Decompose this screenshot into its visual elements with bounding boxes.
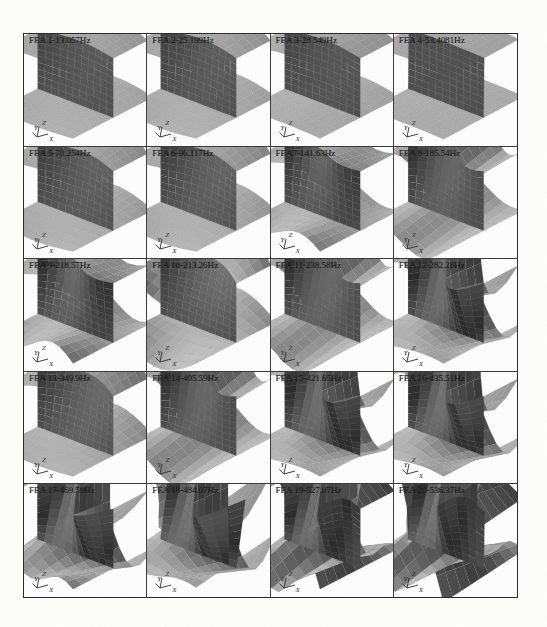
axis-triad: XYZ: [277, 572, 307, 594]
mode-shape-panel[interactable]: FEA 8-185.54HzXYZ: [394, 147, 517, 260]
mode-shape-panel[interactable]: FEA 9-218.57HzXYZ: [24, 259, 147, 372]
mode-shape-panel[interactable]: FEA 6-96.117HzXYZ: [147, 147, 270, 260]
axis-label-y: Y: [34, 236, 38, 244]
axis-label-z: Z: [42, 231, 46, 239]
mode-shape-panel[interactable]: FEA 12-282.28HzXYZ: [394, 259, 517, 372]
panel-caption: FEA 13-349.9Hz: [29, 373, 90, 383]
panel-caption: FEA 15-421.65Hz: [276, 373, 342, 383]
axis-label-z: Z: [42, 344, 46, 352]
mode-shape-panel[interactable]: FEA7-141.63HzXYZ: [271, 147, 394, 260]
axis-label-x: X: [296, 586, 300, 594]
mode-shape-panel[interactable]: FEA 11-238.58HzXYZ: [271, 259, 394, 372]
panel-caption: FEA 14-405.59Hz: [152, 373, 218, 383]
axis-label-x: X: [296, 135, 300, 143]
axis-triad: XYZ: [30, 121, 60, 143]
axis-triad: XYZ: [30, 233, 60, 255]
axis-label-x: X: [296, 360, 300, 368]
axis-label-x: X: [172, 472, 176, 480]
axis-label-z: Z: [289, 119, 293, 127]
axis-label-x: X: [172, 247, 176, 255]
axis-label-z: Z: [42, 119, 46, 127]
mode-shape-panel[interactable]: FEA 5-70.254HzXYZ: [24, 147, 147, 260]
axis-triad: XYZ: [153, 572, 183, 594]
panel-caption: FEA 17-469.59Hz: [29, 485, 95, 495]
mode-shape-panel[interactable]: FEA 1-13.057HzXYZ: [24, 34, 147, 147]
mode-shape-panel[interactable]: FEA 4-53.4081HzXYZ: [394, 34, 517, 147]
panel-caption: FEA 11-238.58Hz: [276, 260, 342, 270]
axis-label-x: X: [419, 360, 423, 368]
panel-caption: FEA 9-218.57Hz: [29, 260, 90, 270]
mode-shape-grid: FEA 1-13.057HzXYZFEA 2-25.199HzXYZFEA 3-…: [23, 33, 518, 598]
axis-label-z: Z: [289, 231, 293, 239]
axis-label-y: Y: [34, 461, 38, 469]
axis-label-y: Y: [404, 349, 408, 357]
axis-triad: XYZ: [153, 346, 183, 368]
panel-caption: FEA 19-527.07Hz: [276, 485, 342, 495]
panel-caption: FEA7-141.63Hz: [276, 148, 336, 158]
axis-label-z: Z: [412, 456, 416, 464]
axis-triad: XYZ: [277, 121, 307, 143]
axis-triad: XYZ: [277, 346, 307, 368]
axis-label-y: Y: [404, 461, 408, 469]
axis-label-y: Y: [281, 461, 285, 469]
axis-label-x: X: [419, 247, 423, 255]
mode-shape-panel[interactable]: FEA 2-25.199HzXYZ: [147, 34, 270, 147]
panel-caption: FEA 4-53.4081Hz: [399, 35, 465, 45]
mode-shape-panel[interactable]: FEA 16-435.51HzXYZ: [394, 372, 517, 485]
axis-label-z: Z: [412, 344, 416, 352]
panel-caption: FEA 10-213.26Hz: [152, 260, 218, 270]
axis-label-z: Z: [165, 456, 169, 464]
mode-shape-panel[interactable]: FEA 13-349.9HzXYZ: [24, 372, 147, 485]
mode-shape-panel[interactable]: FEA 20-536.37HzXYZ: [394, 484, 517, 597]
axis-label-z: Z: [412, 570, 416, 578]
axis-label-x: X: [172, 135, 176, 143]
axis-label-z: Z: [412, 231, 416, 239]
axis-label-y: Y: [281, 236, 285, 244]
axis-label-x: X: [419, 135, 423, 143]
mode-shape-panel[interactable]: FEA 10-213.26HzXYZ: [147, 259, 270, 372]
panel-caption: FEA 1-13.057Hz: [29, 35, 90, 45]
mode-shape-panel[interactable]: FEA 14-405.59HzXYZ: [147, 372, 270, 485]
axis-triad: XYZ: [400, 233, 430, 255]
axis-triad: XYZ: [400, 458, 430, 480]
axis-triad: XYZ: [400, 572, 430, 594]
axis-label-x: X: [49, 360, 53, 368]
panel-caption: FEA 6-96.117Hz: [152, 148, 213, 158]
mode-shape-panel[interactable]: FEA 19-527.07HzXYZ: [271, 484, 394, 597]
axis-label-y: Y: [34, 349, 38, 357]
axis-label-y: Y: [157, 575, 161, 583]
axis-label-x: X: [172, 360, 176, 368]
axis-label-y: Y: [281, 349, 285, 357]
axis-label-x: X: [49, 472, 53, 480]
axis-label-x: X: [49, 247, 53, 255]
axis-label-y: Y: [157, 236, 161, 244]
mode-shape-panel[interactable]: FEA 15-421.65HzXYZ: [271, 372, 394, 485]
axis-label-z: Z: [289, 570, 293, 578]
axis-triad: XYZ: [30, 458, 60, 480]
axis-label-y: Y: [404, 236, 408, 244]
axis-label-z: Z: [42, 456, 46, 464]
axis-label-z: Z: [289, 344, 293, 352]
axis-label-y: Y: [281, 124, 285, 132]
axis-label-z: Z: [165, 570, 169, 578]
axis-triad: XYZ: [153, 121, 183, 143]
panel-caption: FEA 5-70.254Hz: [29, 148, 90, 158]
axis-triad: XYZ: [277, 233, 307, 255]
panel-caption: FEA 12-282.28Hz: [399, 260, 465, 270]
panel-caption: FEA 2-25.199Hz: [152, 35, 213, 45]
axis-triad: XYZ: [400, 121, 430, 143]
axis-label-z: Z: [165, 344, 169, 352]
axis-label-x: X: [49, 586, 53, 594]
axis-triad: XYZ: [30, 572, 60, 594]
axis-label-x: X: [49, 135, 53, 143]
mode-shape-panel[interactable]: FEA 17-469.59HzXYZ: [24, 484, 147, 597]
axis-label-x: X: [296, 247, 300, 255]
axis-label-x: X: [296, 472, 300, 480]
mode-shape-panel[interactable]: FEA 18-484.07HzXYZ: [147, 484, 270, 597]
axis-triad: XYZ: [153, 233, 183, 255]
mode-shape-panel[interactable]: FEA 3-28.549HzXYZ: [271, 34, 394, 147]
axis-label-z: Z: [42, 570, 46, 578]
panel-caption: FEA 18-484.07Hz: [152, 485, 218, 495]
axis-label-y: Y: [34, 575, 38, 583]
panel-caption: FEA 20-536.37Hz: [399, 485, 465, 495]
